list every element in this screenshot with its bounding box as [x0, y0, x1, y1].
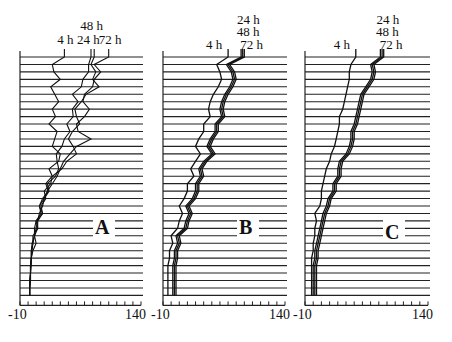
series-label: 72 h: [240, 37, 263, 52]
x-tick-label-min: -10: [151, 307, 170, 322]
series-label: 24 h: [77, 32, 100, 47]
series-label: 4 h: [206, 37, 223, 52]
x-tick-label-max: 140: [269, 307, 290, 322]
chart-figure: -1014048 h4 h24 h72 hA-1014024 h48 h4 h7…: [0, 0, 452, 342]
panel-label: B: [239, 216, 252, 238]
x-tick-label-max: 140: [125, 307, 146, 322]
series-label: 72 h: [99, 32, 122, 47]
panel-label: A: [95, 216, 110, 238]
series-label: 4 h: [334, 37, 351, 52]
series-label: 4 h: [57, 32, 74, 47]
x-tick-label-min: -10: [8, 307, 27, 322]
panel-a: -1014048 h4 h24 h72 hA: [8, 18, 146, 322]
x-tick-label-max: 140: [412, 307, 433, 322]
panel-label: C: [385, 221, 399, 243]
x-tick-label-min: -10: [293, 307, 312, 322]
panel-c: -1014024 h48 h4 h72 hC: [293, 12, 433, 322]
panel-b: -1014024 h48 h4 h72 hB: [151, 12, 290, 322]
series-label: 48 h: [80, 18, 103, 33]
series-label: 72 h: [380, 37, 403, 52]
